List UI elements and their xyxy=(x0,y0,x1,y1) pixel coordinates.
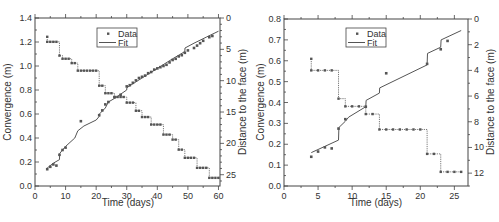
right-y-axis-title: Convergence (m) xyxy=(255,63,266,140)
data-point xyxy=(446,40,449,43)
distance-point xyxy=(365,113,367,115)
y2-tick-label: 8 xyxy=(474,117,479,127)
distance-point xyxy=(67,58,69,60)
legend-data-marker xyxy=(356,33,358,35)
distance-point xyxy=(426,153,428,155)
distance-point xyxy=(113,96,115,98)
right-x-axis-title: Time (days) xyxy=(350,197,402,208)
distance-point xyxy=(126,101,128,103)
distance-point xyxy=(89,69,91,71)
distance-point xyxy=(138,110,140,112)
y-tick-label: 0.0 xyxy=(19,181,32,191)
distance-point xyxy=(453,171,455,173)
data-point xyxy=(385,72,388,75)
distance-point xyxy=(187,157,189,159)
distance-point xyxy=(460,171,462,173)
data-point xyxy=(193,47,196,50)
distance-point xyxy=(92,69,94,71)
distance-point xyxy=(324,69,326,71)
y-tick-label: 0.5 xyxy=(268,77,281,87)
y-tick-label: 1.2 xyxy=(19,37,32,47)
distance-point xyxy=(156,123,158,125)
x-tick-label: 50 xyxy=(183,191,193,201)
distance-point xyxy=(46,36,48,38)
right-y2-axis-title: Distance to the face (m) xyxy=(485,49,496,155)
y-tick-label: 0.4 xyxy=(268,98,281,108)
data-point xyxy=(80,120,83,123)
left-y2-axis-title: Distance to the face (m) xyxy=(237,49,248,155)
distance-point xyxy=(208,177,210,179)
x-tick-label: 20 xyxy=(91,191,101,201)
distance-point xyxy=(61,58,63,60)
y-tick-label: 0.7 xyxy=(268,35,281,45)
y2-tick-label: 12 xyxy=(474,168,484,178)
x-tick-label: 0 xyxy=(281,191,286,201)
distance-point xyxy=(202,167,204,169)
distance-point xyxy=(132,101,134,103)
distance-point xyxy=(49,41,51,43)
distance-point xyxy=(80,69,82,71)
distance-point xyxy=(344,105,346,107)
left-x-axis-title: Time (days) xyxy=(102,197,154,208)
distance-point xyxy=(337,97,339,99)
distance-point xyxy=(110,92,112,94)
distance-point xyxy=(392,128,394,130)
right-legend-fit-label: Fit xyxy=(367,38,377,48)
distance-point xyxy=(70,62,72,64)
y-tick-label: 0.4 xyxy=(19,133,32,143)
distance-step-line xyxy=(311,70,461,171)
data-point xyxy=(317,150,320,153)
distance-point xyxy=(104,92,106,94)
distance-step-line xyxy=(47,42,218,178)
distance-point xyxy=(83,69,85,71)
distance-point xyxy=(358,105,360,107)
distance-point xyxy=(159,123,161,125)
distance-point xyxy=(331,69,333,71)
y-tick-label: 0.0 xyxy=(268,181,281,191)
fit-line xyxy=(311,31,461,153)
data-point xyxy=(310,155,313,158)
distance-point xyxy=(181,148,183,150)
distance-point xyxy=(129,101,131,103)
distance-point xyxy=(135,110,137,112)
y2-tick-label: 2 xyxy=(474,40,479,50)
distance-point xyxy=(184,157,186,159)
distance-point xyxy=(141,116,143,118)
data-point xyxy=(46,168,49,171)
y2-tick-label: 4 xyxy=(474,65,479,75)
y-tick-label: 0.3 xyxy=(268,118,281,128)
distance-point xyxy=(211,177,213,179)
distance-point xyxy=(199,167,201,169)
distance-point xyxy=(58,54,60,56)
distance-point xyxy=(86,69,88,71)
data-point xyxy=(199,42,202,45)
distance-point xyxy=(144,116,146,118)
data-point xyxy=(165,64,168,67)
distance-point xyxy=(446,171,448,173)
data-point xyxy=(55,164,58,167)
data-point xyxy=(196,44,199,47)
distance-point xyxy=(217,177,219,179)
distance-point xyxy=(385,128,387,130)
distance-point xyxy=(55,41,57,43)
figure: 01020304050600.00.20.40.60.81.01.21.4051… xyxy=(0,0,499,222)
y2-tick-label: 10 xyxy=(226,76,236,86)
distance-point xyxy=(205,167,207,169)
distance-point xyxy=(196,167,198,169)
distance-point xyxy=(162,133,164,135)
distance-point xyxy=(405,128,407,130)
distance-point xyxy=(119,96,121,98)
distance-point xyxy=(168,133,170,135)
y2-tick-label: 5 xyxy=(226,44,231,54)
distance-point xyxy=(122,96,124,98)
left-y-axis-title: Convergence (m) xyxy=(2,63,13,140)
y2-tick-label: 10 xyxy=(474,142,484,152)
distance-point xyxy=(190,157,192,159)
distance-point xyxy=(351,105,353,107)
y-tick-label: 0.8 xyxy=(19,85,32,95)
x-tick-label: 5 xyxy=(316,191,321,201)
y-tick-label: 0.1 xyxy=(268,160,281,170)
distance-point xyxy=(64,58,66,60)
x-tick-label: 60 xyxy=(213,191,223,201)
distance-point xyxy=(412,128,414,130)
